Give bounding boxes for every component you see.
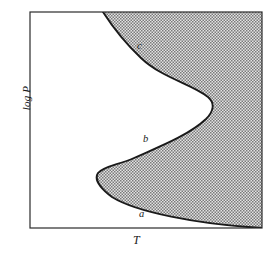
- figure-container: log P T c b a: [0, 0, 280, 257]
- curve-label-b: b: [143, 134, 148, 145]
- y-axis-label: log P: [20, 68, 32, 128]
- curve-label-a: a: [139, 209, 144, 220]
- curve-label-c: c: [137, 41, 142, 52]
- x-axis-label: T: [133, 233, 140, 248]
